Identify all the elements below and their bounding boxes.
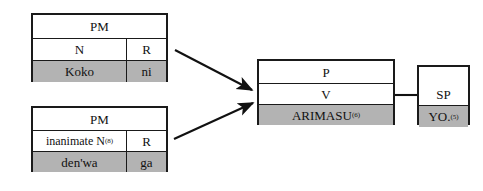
arrow-denwa-to-arimasu bbox=[174, 103, 253, 139]
table-denwa: PM inanimate N(8) R den'wa ga bbox=[31, 106, 168, 172]
table-arimasu-header-row: P bbox=[259, 61, 393, 83]
table-koko-category-n: N bbox=[33, 39, 126, 60]
table-yo-item-yo: YO.(5) bbox=[419, 106, 468, 127]
table-denwa-header-pm: PM bbox=[33, 108, 166, 130]
table-koko-category-row: N R bbox=[33, 38, 166, 60]
table-denwa-item-denwa: den'wa bbox=[33, 152, 126, 172]
table-denwa-item-ga: ga bbox=[126, 152, 166, 172]
table-arimasu-item-text: ARIMASU bbox=[292, 109, 352, 122]
table-yo: SP YO.(5) bbox=[417, 65, 470, 125]
table-yo-item-row: YO.(5) bbox=[419, 105, 468, 127]
table-denwa-category-inanimate-n-text: inanimate N bbox=[46, 135, 105, 147]
table-denwa-item-row: den'wa ga bbox=[33, 151, 166, 172]
table-koko-category-r: R bbox=[126, 39, 166, 60]
table-koko-item-ni: ni bbox=[126, 61, 166, 82]
table-arimasu-category-v: V bbox=[259, 84, 393, 104]
arrow-koko-to-arimasu bbox=[175, 50, 252, 90]
table-arimasu-item-row: ARIMASU(6) bbox=[259, 104, 393, 125]
table-koko-item-row: Koko ni bbox=[33, 60, 166, 82]
table-arimasu: P V ARIMASU(6) bbox=[257, 59, 395, 125]
table-koko: PM N R Koko ni bbox=[31, 13, 168, 82]
table-arimasu-category-row: V bbox=[259, 83, 393, 104]
table-denwa-category-row: inanimate N(8) R bbox=[33, 130, 166, 151]
table-arimasu-item-arimasu: ARIMASU(6) bbox=[259, 105, 393, 125]
table-yo-category-sp: SP bbox=[419, 67, 468, 105]
table-koko-header-pm: PM bbox=[33, 15, 166, 38]
table-denwa-header-row: PM bbox=[33, 108, 166, 130]
table-yo-category-row: SP bbox=[419, 67, 468, 105]
table-koko-item-koko: Koko bbox=[33, 61, 126, 82]
table-arimasu-header-p: P bbox=[259, 61, 393, 83]
table-denwa-category-inanimate-n: inanimate N(8) bbox=[33, 131, 126, 151]
table-yo-item-text: YO. bbox=[428, 110, 450, 123]
table-denwa-category-r: R bbox=[126, 131, 166, 151]
diagram-canvas: PM N R Koko ni PM inanimate N(8) R den'w… bbox=[0, 0, 483, 191]
table-koko-header-row: PM bbox=[33, 15, 166, 38]
